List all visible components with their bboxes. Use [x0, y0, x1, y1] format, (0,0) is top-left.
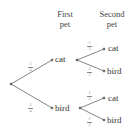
prob-num: 3 [30, 102, 32, 107]
prob-cat-cat: 1 3 [87, 41, 92, 51]
header-first-pet: First pet [50, 9, 80, 29]
prob-bird-bird: 2 3 [87, 117, 92, 127]
prob-den: 3 [89, 122, 91, 127]
prob-num: 1 [89, 90, 91, 95]
node-second-cat-cat: cat [108, 43, 119, 53]
prob-den: 3 [89, 72, 91, 77]
prob-first-bird: 3 4 [28, 103, 33, 113]
header-second-line1: Second [94, 9, 130, 19]
prob-den: 4 [30, 67, 32, 72]
prob-cat-bird: 2 3 [87, 67, 92, 77]
node-second-bird-cat: cat [108, 93, 119, 103]
header-first-line2: pet [50, 19, 80, 29]
node-second-cat-bird: bird [107, 66, 122, 76]
header-second-pet: Second pet [94, 9, 130, 29]
prob-first-cat: 1 4 [28, 62, 33, 72]
header-second-line2: pet [94, 19, 130, 29]
node-first-cat: cat [55, 54, 66, 64]
prob-bird-cat: 1 3 [87, 91, 92, 101]
prob-num: 1 [89, 40, 91, 45]
prob-num: 2 [89, 66, 91, 71]
node-first-bird: bird [55, 103, 70, 113]
prob-num: 1 [30, 61, 32, 66]
prob-num: 2 [89, 116, 91, 121]
header-first-line1: First [50, 9, 80, 19]
prob-den: 3 [89, 96, 91, 101]
node-second-bird-bird: bird [107, 115, 122, 125]
prob-den: 4 [30, 108, 32, 113]
prob-den: 3 [89, 46, 91, 51]
